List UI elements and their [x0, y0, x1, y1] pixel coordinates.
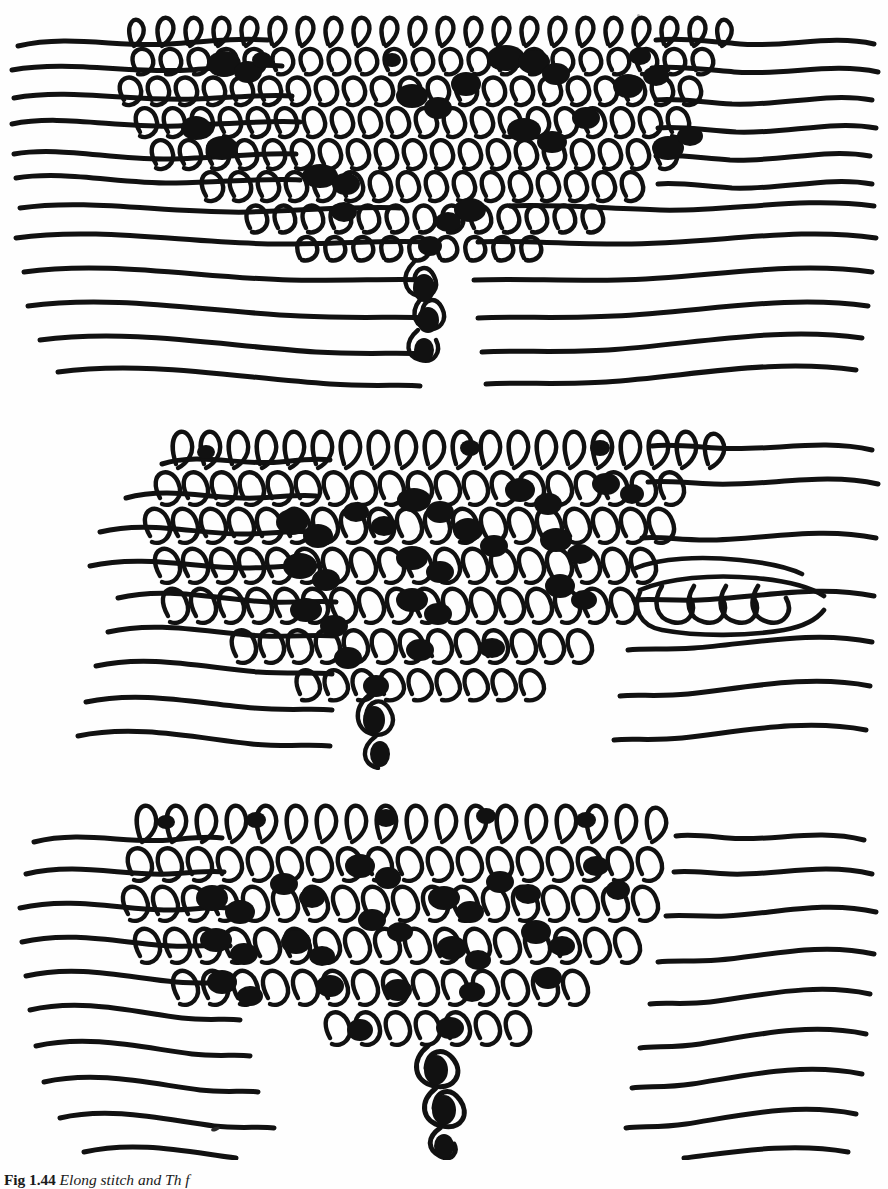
figure-page: Fig 1.44 Elong stitch and Th f: [0, 0, 888, 1189]
panel-top-knit-diagram: [0, 0, 888, 390]
figure-caption-text: Elong stitch and Th f: [60, 1171, 190, 1188]
scan-ink-speck-small: [637, 14, 640, 17]
panel-bottom-knit-diagram: [0, 770, 888, 1160]
figure-caption: Fig 1.44 Elong stitch and Th f: [4, 1170, 884, 1189]
figure-caption-number: Fig 1.44: [4, 1171, 56, 1188]
panel-middle-knit-diagram: [0, 390, 888, 770]
figure-illustration: [0, 0, 888, 1160]
